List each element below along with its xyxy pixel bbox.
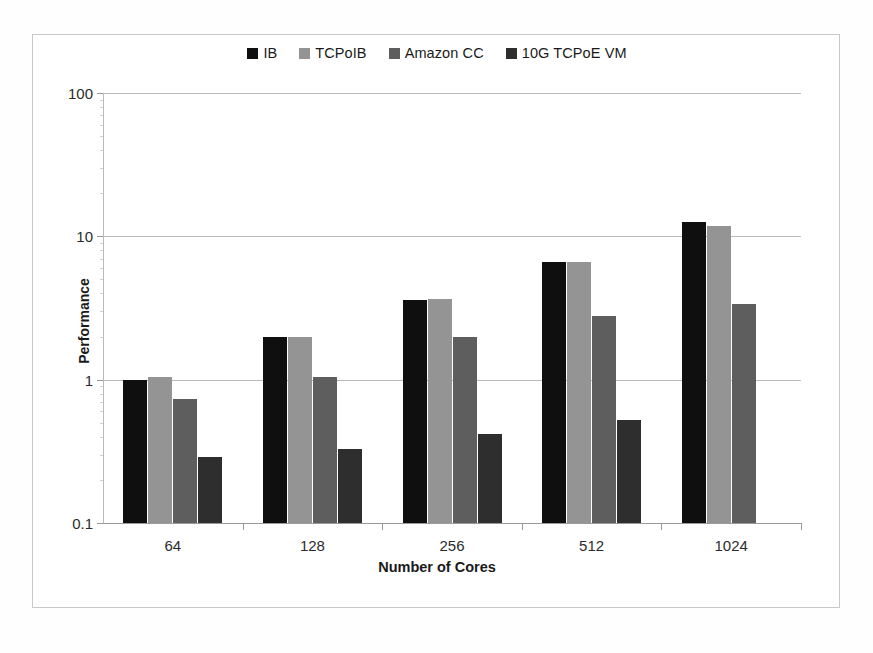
legend-label: IB xyxy=(263,45,277,61)
y-axis-title: Performance xyxy=(76,278,92,364)
bar-tcpoib-1024[interactable] xyxy=(707,226,731,523)
x-axis-title: Number of Cores xyxy=(33,559,841,575)
legend-swatch-icon xyxy=(389,48,400,59)
legend-item-10g-tcpoe-vm[interactable]: 10G TCPoE VM xyxy=(506,45,627,61)
x-tick-label-512: 512 xyxy=(579,537,604,554)
x-axis-separator-tick xyxy=(522,523,523,530)
bar-tcpoib-256[interactable] xyxy=(428,299,452,523)
y-tick-label: 1 xyxy=(85,371,93,388)
x-tick-label-1024: 1024 xyxy=(715,537,748,554)
bar-group-256 xyxy=(403,93,502,523)
plot-area: 1001010.1 641282565121024 xyxy=(103,93,801,523)
legend-label: TCPoIB xyxy=(315,45,366,61)
y-tick-label: 100 xyxy=(68,85,93,102)
bar-group-128 xyxy=(263,93,362,523)
bar-tcpoib-128[interactable] xyxy=(288,337,312,523)
x-tick-label-64: 64 xyxy=(164,537,181,554)
chart-legend: IBTCPoIBAmazon CC10G TCPoE VM xyxy=(33,45,841,61)
scanned-page: IBTCPoIBAmazon CC10G TCPoE VM Performanc… xyxy=(0,0,873,653)
bar-tcpoib-64[interactable] xyxy=(148,377,172,523)
legend-label: Amazon CC xyxy=(405,45,484,61)
x-axis-separator-tick xyxy=(801,523,802,530)
y-tick-label: 10 xyxy=(76,228,93,245)
bar-ib-64[interactable] xyxy=(123,380,147,523)
y-tick-mark xyxy=(97,523,103,524)
legend-item-tcpoib[interactable]: TCPoIB xyxy=(299,45,366,61)
x-tick-label-256: 256 xyxy=(439,537,464,554)
bar-ib-256[interactable] xyxy=(403,300,427,523)
bar-ib-128[interactable] xyxy=(263,337,287,523)
bar-group-64 xyxy=(123,93,222,523)
x-axis-separator-tick xyxy=(243,523,244,530)
bar-amazon-cc-128[interactable] xyxy=(313,377,337,523)
bar-10g-tcpoe-vm-256[interactable] xyxy=(478,434,502,523)
chart-frame: IBTCPoIBAmazon CC10G TCPoE VM Performanc… xyxy=(32,34,840,608)
legend-item-ib[interactable]: IB xyxy=(247,45,277,61)
bar-series-container xyxy=(103,93,801,523)
bar-10g-tcpoe-vm-128[interactable] xyxy=(338,449,362,523)
x-axis-separator-tick xyxy=(661,523,662,530)
y-tick-label: 0.1 xyxy=(72,515,93,532)
bar-group-512 xyxy=(542,93,641,523)
bar-10g-tcpoe-vm-64[interactable] xyxy=(198,457,222,523)
bar-ib-1024[interactable] xyxy=(682,222,706,523)
bar-amazon-cc-1024[interactable] xyxy=(732,304,756,524)
bar-group-1024 xyxy=(682,93,781,523)
bar-amazon-cc-256[interactable] xyxy=(453,337,477,523)
bar-ib-512[interactable] xyxy=(542,262,566,523)
legend-swatch-icon xyxy=(247,48,258,59)
bar-amazon-cc-64[interactable] xyxy=(173,399,197,523)
bar-amazon-cc-512[interactable] xyxy=(592,316,616,523)
x-axis-separator-tick xyxy=(382,523,383,530)
bar-10g-tcpoe-vm-512[interactable] xyxy=(617,420,641,523)
legend-swatch-icon xyxy=(506,48,517,59)
legend-label: 10G TCPoE VM xyxy=(522,45,627,61)
x-tick-label-128: 128 xyxy=(300,537,325,554)
bar-tcpoib-512[interactable] xyxy=(567,262,591,523)
legend-item-amazon-cc[interactable]: Amazon CC xyxy=(389,45,484,61)
gridline-0.1 xyxy=(103,523,801,524)
legend-swatch-icon xyxy=(299,48,310,59)
